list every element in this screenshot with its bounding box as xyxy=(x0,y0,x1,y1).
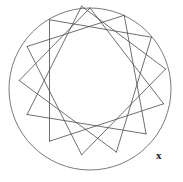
star-edge xyxy=(50,104,164,141)
star-edge xyxy=(27,115,146,134)
point-label-x: x xyxy=(156,150,162,161)
geometry-figure: x xyxy=(0,0,183,182)
star-edge xyxy=(27,47,82,155)
star-edge xyxy=(82,69,166,155)
star-edge xyxy=(19,8,90,81)
star-edge xyxy=(27,6,82,114)
star-edge xyxy=(19,81,116,153)
star-edge xyxy=(27,15,124,46)
